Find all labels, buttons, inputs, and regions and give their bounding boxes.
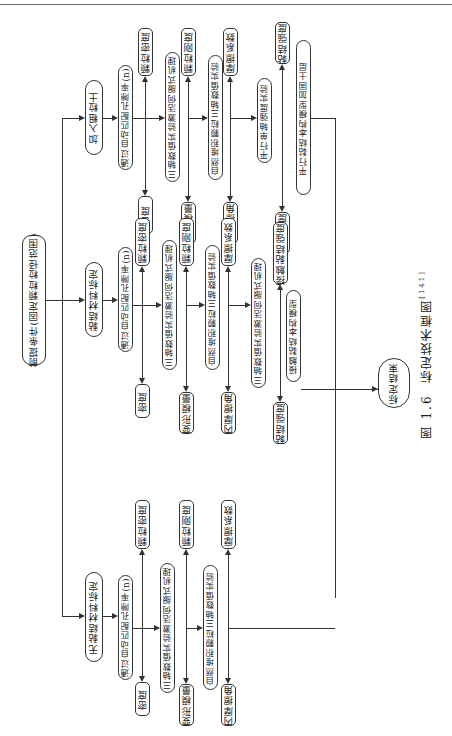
binder-bond-strength: 黏结强度 bbox=[273, 402, 288, 444]
root-connector bbox=[46, 300, 62, 301]
root-premise-box: 前提条件(固定颗粒粒径范围) bbox=[22, 235, 46, 365]
binder-contact-bond-strength: 接触黏结强度 bbox=[273, 222, 288, 284]
row-line bbox=[145, 82, 146, 190]
figure-caption: 图 1.6 标定技术框图[141] bbox=[418, 270, 435, 439]
binder-particle-density: 颗粒密度 bbox=[135, 218, 150, 266]
connector bbox=[301, 389, 378, 390]
row-line bbox=[186, 555, 187, 682]
coarse-natural-pile-triaxial: 自然堆积颗粒三轴数值实验 bbox=[208, 55, 223, 180]
arrow-up-icon bbox=[225, 266, 231, 272]
coarse-parallel-bond-model: 平行黏结本构模型加固土层 bbox=[296, 40, 311, 195]
row-line bbox=[282, 70, 283, 210]
binder-density: 密度 bbox=[135, 384, 150, 418]
arrow-up-icon bbox=[139, 549, 145, 555]
page-top-rule bbox=[0, 4, 452, 5]
connector bbox=[228, 305, 246, 306]
branch-coarse-title: 加入粗粒土 bbox=[85, 80, 103, 155]
coarse-bond-strength: 黏结强度 bbox=[275, 22, 290, 64]
arrow-up-icon bbox=[139, 266, 145, 272]
connector bbox=[62, 300, 79, 301]
arrow-up-icon bbox=[183, 549, 189, 555]
arrow-up-icon bbox=[279, 64, 285, 70]
no-binder-deformation-modulus: 变形模量 bbox=[179, 684, 194, 726]
trunk-line bbox=[62, 118, 63, 616]
arrow-up-icon bbox=[227, 76, 233, 82]
connector bbox=[142, 305, 157, 306]
branch-coarse-step: 通过自动匹配孔隙率(n) bbox=[118, 65, 133, 170]
coarse-friction-coef: 摩擦系数 bbox=[223, 28, 238, 76]
row-line bbox=[188, 82, 189, 200]
row-line bbox=[142, 272, 143, 382]
arrow-up-icon bbox=[183, 266, 189, 272]
calibration-end-box: 标定结束 bbox=[378, 358, 410, 408]
binder-triaxial-servo: 三轴数值实验激活伺服式机理 bbox=[162, 240, 177, 370]
connector bbox=[133, 628, 142, 629]
binder-contact-bond-model: 接触黏结本构模型 bbox=[286, 290, 301, 382]
connector bbox=[62, 118, 79, 119]
branch-no-binder-step: 通过自动匹配孔隙率(n) bbox=[118, 575, 133, 680]
connector bbox=[62, 616, 79, 617]
root-label: 前提条件(固定颗粒粒径范围) bbox=[27, 233, 41, 367]
connector bbox=[230, 118, 252, 119]
no-binder-particle-density: 颗粒密度 bbox=[135, 500, 150, 549]
coarse-triaxial-servo: 三轴数值实验激活伺服式机理 bbox=[165, 52, 180, 182]
connector bbox=[145, 118, 160, 119]
return-line bbox=[335, 118, 336, 598]
connector bbox=[188, 118, 203, 119]
no-binder-density: 密度 bbox=[135, 682, 150, 716]
connector bbox=[133, 305, 142, 306]
arrow-up-icon bbox=[225, 549, 231, 555]
binder-friction-coef: 摩擦系数 bbox=[221, 218, 236, 266]
row-line bbox=[230, 82, 231, 200]
binder-natural-pile-triaxial: 自然堆积颗粒三轴数值实验 bbox=[205, 245, 220, 370]
binder-particle-stiffness: 颗粒刚度 bbox=[179, 218, 194, 266]
no-binder-triaxial-servo: 三轴数值实验激活伺服式机理 bbox=[160, 563, 175, 693]
branch-binder-title: 黏结材料标定 bbox=[85, 262, 103, 337]
connector bbox=[186, 305, 200, 306]
coarse-particle-stiffness: 颗粒刚度 bbox=[181, 28, 196, 76]
binder-friction-angle: 内摩擦角 bbox=[221, 392, 236, 434]
coarse-particle-density: 颗粒密度 bbox=[138, 28, 153, 76]
row-line bbox=[280, 290, 281, 400]
row-line bbox=[186, 272, 187, 390]
branch-binder-step: 通过自动匹配孔隙率(n) bbox=[118, 247, 133, 352]
binder-deformation-modulus: 变形模量 bbox=[179, 392, 194, 434]
arrow-up-icon bbox=[185, 76, 191, 82]
no-binder-natural-pile-triaxial: 自然堆积颗粒三轴数值实验 bbox=[203, 565, 218, 690]
no-binder-friction-coef: 摩擦系数 bbox=[221, 500, 236, 549]
connector bbox=[228, 628, 335, 629]
no-binder-particle-stiffness: 颗粒刚度 bbox=[179, 500, 194, 549]
coarse-uniaxial-test: 平行单轴强度实验 bbox=[257, 78, 272, 163]
branch-no-binder-title: 无黏结材料标定 bbox=[85, 572, 103, 662]
binder-triaxial-servo-2: 三轴数值实验激活伺服式机理 bbox=[251, 258, 266, 388]
row-line bbox=[228, 555, 229, 682]
connector bbox=[133, 118, 145, 119]
row-line bbox=[142, 555, 143, 680]
arrow-up-icon bbox=[142, 76, 148, 82]
row-line bbox=[228, 272, 229, 390]
no-binder-friction-angle: 内摩擦角 bbox=[221, 684, 236, 726]
connector bbox=[311, 118, 335, 119]
